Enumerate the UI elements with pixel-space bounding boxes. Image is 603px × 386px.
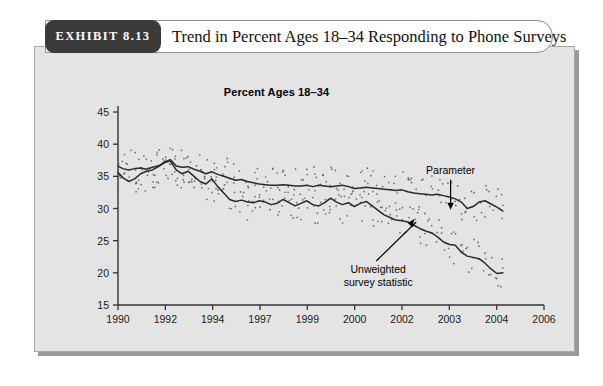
y-tick-label: 15 (97, 299, 109, 311)
scatter-point (165, 174, 167, 176)
scatter-point (461, 219, 463, 221)
scatter-point (424, 213, 426, 215)
y-tick-label: 35 (97, 170, 109, 182)
scatter-point (259, 194, 261, 196)
scatter-point (254, 196, 256, 198)
scatter-point (363, 191, 365, 193)
x-tick-label: 1992 (154, 313, 178, 325)
scatter-point (441, 232, 443, 234)
scatter-point (196, 165, 198, 167)
scatter-point (422, 179, 424, 181)
scatter-point (191, 181, 193, 183)
scatter-point (402, 207, 404, 209)
scatter-point (233, 176, 235, 178)
scatter-point (473, 239, 475, 241)
scatter-point (377, 220, 379, 222)
scatter-point (272, 198, 274, 200)
scatter-point (270, 187, 272, 189)
scatter-point (364, 205, 366, 207)
scatter-point (306, 169, 308, 171)
scatter-point (293, 189, 295, 191)
scatter-point (361, 196, 363, 198)
scatter-point (460, 245, 462, 247)
scatter-point (147, 174, 149, 176)
scatter-point (277, 214, 279, 216)
scatter-point (175, 180, 177, 182)
scatter-point (143, 155, 145, 157)
scatter-point (233, 182, 235, 184)
scatter-point (481, 212, 483, 214)
annotation-parameter: Parameter (426, 164, 476, 176)
scatter-point (152, 187, 154, 189)
scatter-point (439, 179, 441, 181)
scatter-point (247, 186, 249, 188)
x-tick-label: 1997 (248, 313, 272, 325)
scatter-point (330, 209, 332, 211)
scatter-point (215, 180, 217, 182)
scatter-point (200, 169, 202, 171)
scatter-point (224, 184, 226, 186)
scatter-point (372, 219, 374, 221)
scatter-point (254, 207, 256, 209)
scatter-point (330, 167, 332, 169)
scatter-point (322, 174, 324, 176)
scatter-point (276, 172, 278, 174)
scatter-point (356, 198, 358, 200)
scatter-point (150, 160, 152, 162)
scatter-point (476, 219, 478, 221)
scatter-point (408, 217, 410, 219)
scatter-point (201, 183, 203, 185)
scatter-point (295, 168, 297, 170)
scatter-point (277, 187, 279, 189)
scatter-point (287, 186, 289, 188)
scatter-point (172, 149, 174, 151)
scatter-point (488, 274, 490, 276)
scatter-point (396, 192, 398, 194)
scatter-point (210, 176, 212, 178)
scatter-point (346, 175, 348, 177)
scatter-point (448, 247, 450, 249)
scatter-point (340, 196, 342, 198)
scatter-point (137, 188, 139, 190)
scatter-point (384, 210, 386, 212)
chart-axes: 1520253035404519901992199419971999200020… (97, 106, 556, 325)
scatter-point (201, 187, 203, 189)
scatter-point (501, 194, 503, 196)
scatter-point (256, 178, 258, 180)
scatter-point (307, 174, 309, 176)
x-tick-label: 2004 (485, 313, 509, 325)
scatter-point (325, 181, 327, 183)
scatter-point (361, 220, 363, 222)
scatter-point (473, 216, 475, 218)
scatter-point (396, 209, 398, 211)
scatter-point (145, 158, 147, 160)
scatter-point (176, 184, 178, 186)
scatter-point (218, 193, 220, 195)
scatter-point (247, 219, 249, 221)
scatter-point (215, 188, 217, 190)
scatter-point (314, 222, 316, 224)
scatter-point (336, 188, 338, 190)
scatter-point (206, 199, 208, 201)
scatter-point (117, 154, 119, 156)
scatter-point (411, 182, 413, 184)
scatter-point (445, 202, 447, 204)
scatter-point (315, 177, 317, 179)
scatter-point (182, 179, 184, 181)
scatter-point (409, 206, 411, 208)
scatter-point (437, 232, 439, 234)
scatter-point (370, 175, 372, 177)
scatter-point (278, 211, 280, 213)
scatter-point (364, 180, 366, 182)
x-tick-label: 2003 (438, 313, 462, 325)
scatter-point (497, 188, 499, 190)
scatter-point (426, 244, 428, 246)
scatter-point (348, 197, 350, 199)
scatter-point (376, 184, 378, 186)
scatter-point (254, 184, 256, 186)
scatter-point (337, 189, 339, 191)
scatter-point (120, 177, 122, 179)
scatter-point (279, 189, 281, 191)
scatter-point (420, 242, 422, 244)
x-tick-label: 2000 (343, 313, 367, 325)
